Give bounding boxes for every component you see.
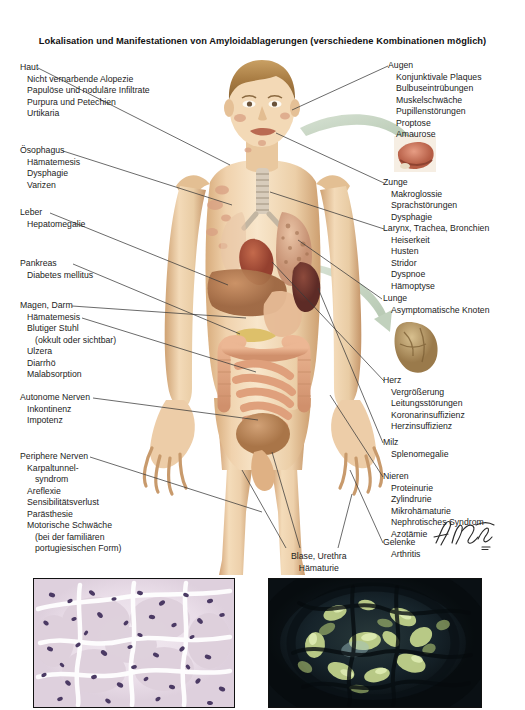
label-lunge: Lunge Asymptomatische Knoten: [378, 293, 490, 316]
label-item: Muskelschwäche: [383, 95, 481, 107]
label-item: (okkult oder sichtbar): [20, 335, 116, 347]
label-item: Hepatomegalie: [20, 219, 85, 231]
label-item: Pupillenstörungen: [383, 106, 481, 118]
label-item: Ulzera: [20, 346, 116, 358]
label-heading: Nieren: [378, 471, 484, 483]
label-item: Koronarinsuffizienz: [378, 410, 465, 422]
label-item: Konjunktivale Plaques: [383, 72, 481, 84]
heart-amyloid-inset: [395, 322, 438, 373]
label-heading: Zunge: [378, 177, 457, 189]
label-heading: Blase, Urethra: [291, 551, 347, 563]
label-haut: Haut Nicht vernarbende Alopezie Papulöse…: [20, 62, 150, 120]
label-item: Nicht vernarbende Alopezie: [20, 74, 150, 86]
label-item: Proptose: [383, 118, 481, 130]
histology-he-stain: [33, 578, 235, 708]
label-autonome-nerven: Autonome Nerven Inkontinenz Impotenz: [20, 392, 90, 427]
label-item: Blutiger Stuhl: [20, 323, 116, 335]
right-hand: [331, 400, 381, 494]
label-item: Sprachstörungen: [378, 200, 457, 212]
histology-congo-red-polarized: [268, 578, 482, 708]
label-item: Heiserkeit: [378, 235, 489, 247]
label-item: Motorische Schwäche: [20, 520, 121, 532]
label-magen-darm: Magen, Darm Hämatemesis Blutiger Stuhl (…: [20, 300, 116, 381]
left-hand: [144, 400, 194, 494]
label-item: Amaurose: [383, 129, 481, 141]
label-item: Hämoptyse: [378, 281, 489, 293]
label-heading: Herz: [378, 375, 465, 387]
label-item: Asymptomatische Knoten: [378, 305, 490, 317]
label-oesophagus: Ösophagus Hämatemesis Dysphagie Varizen: [20, 145, 80, 191]
label-item: Papulöse und noduläre Infiltrate: [20, 85, 150, 97]
label-item: Leitungsstörungen: [378, 398, 465, 410]
label-item: Diabetes mellitus: [20, 270, 93, 282]
label-zunge: Zunge Makroglossie Sprachstörungen Dysph…: [378, 177, 457, 223]
label-item: Areflexie: [20, 486, 121, 498]
label-pankreas: Pankreas Diabetes mellitus: [20, 258, 93, 281]
label-heading: Milz: [378, 437, 448, 449]
label-item: Dyspnoe: [378, 269, 489, 281]
label-item: Arthritis: [378, 549, 420, 561]
label-item: Karpaltunnel-: [20, 463, 121, 475]
label-gelenke: Gelenke Arthritis: [378, 537, 420, 560]
label-item: (bei der familiären: [20, 532, 121, 544]
artist-signature: [432, 517, 498, 551]
label-item: Urtikaria: [20, 108, 150, 120]
label-item: Diarrhö: [20, 358, 116, 370]
label-herz: Herz Vergrößerung Leitungsstörungen Koro…: [378, 375, 465, 433]
label-item: Splenomegalie: [378, 449, 448, 461]
label-heading: Ösophagus: [20, 145, 80, 157]
human-figure: [144, 60, 381, 575]
label-heading: Autonome Nerven: [20, 392, 90, 404]
bladder: [236, 413, 290, 455]
label-heading: Larynx, Trachea, Bronchien: [378, 223, 489, 235]
label-item: Dysphagie: [20, 168, 80, 180]
label-heading: Periphere Nerven: [20, 451, 121, 463]
label-item: Inkontinenz: [20, 404, 90, 416]
label-heading: Augen: [383, 60, 481, 72]
label-heading: Haut: [20, 62, 150, 74]
label-milz: Milz Splenomegalie: [378, 437, 448, 460]
label-item: Herzinsuffizienz: [378, 421, 465, 433]
label-leber: Leber Hepatomegalie: [20, 207, 85, 230]
label-heading: Gelenke: [378, 537, 420, 549]
label-item: syndrom: [20, 474, 121, 486]
label-item: Varizen: [20, 180, 80, 192]
label-item: Husten: [378, 246, 489, 258]
label-item: Proteinurie: [378, 483, 484, 495]
label-item: Stridor: [378, 258, 489, 270]
label-item: Purpura und Petechien: [20, 97, 150, 109]
label-item: Hämatemesis: [20, 157, 80, 169]
illustration-page: Lokalisation und Manifestationen von Amy…: [0, 0, 525, 710]
label-blase-urethra: Blase, Urethra Hämaturie: [291, 551, 347, 574]
label-heading: Pankreas: [20, 258, 93, 270]
label-item: Malabsorption: [20, 369, 116, 381]
label-item: Zylindrurie: [378, 494, 484, 506]
label-item: Impotenz: [20, 415, 90, 427]
label-heading: Leber: [20, 207, 85, 219]
label-item: Dysphagie: [378, 212, 457, 224]
label-item: Sensibilitätsverlust: [20, 497, 121, 509]
label-augen: Augen Konjunktivale Plaques Bulbuseintrü…: [383, 60, 481, 141]
label-heading: Lunge: [378, 293, 490, 305]
label-item: Bulbuseintrübungen: [383, 83, 481, 95]
label-item: Parästhesie: [20, 509, 121, 521]
label-item: Hämaturie: [291, 563, 347, 575]
label-item: Mikrohämaturie: [378, 506, 484, 518]
label-item: Makroglossie: [378, 189, 457, 201]
label-periphere-nerven: Periphere Nerven Karpaltunnel- syndrom A…: [20, 451, 121, 555]
label-heading: Magen, Darm: [20, 300, 116, 312]
tongue-macroglossia-inset: [394, 136, 436, 172]
label-item: Hämatemesis: [20, 312, 116, 324]
label-item: Vergrößerung: [378, 387, 465, 399]
label-item: portugiesischen Form): [20, 543, 121, 555]
label-larynx-trachea-bronchien: Larynx, Trachea, Bronchien Heiserkeit Hu…: [378, 223, 489, 292]
